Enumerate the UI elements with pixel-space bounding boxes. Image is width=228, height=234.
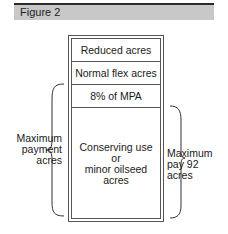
right-brace-label: Maximum pay 92 acres [167, 148, 227, 181]
right-label-line-3: acres [167, 170, 227, 181]
right-brace-icon [0, 0, 228, 234]
left-brace-label: Maximum payment acres [2, 133, 62, 166]
left-label-line-3: acres [2, 155, 62, 166]
